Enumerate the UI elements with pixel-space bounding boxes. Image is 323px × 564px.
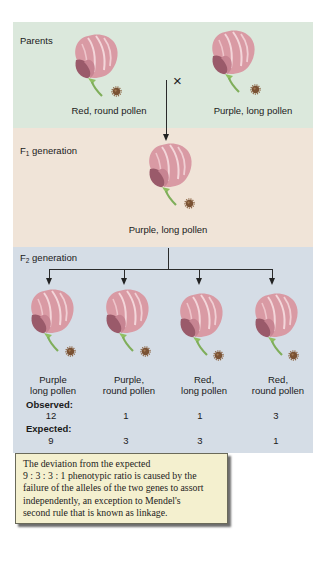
branch-drop-3: [199, 269, 200, 278]
expected-value-2: 3: [106, 435, 146, 446]
observed-value-4: 3: [256, 410, 296, 421]
phenotype-label-2: Purple,round pollen: [93, 374, 165, 396]
arrow-down-icon: [46, 278, 52, 285]
parent-left-label: Red, round pollen: [53, 105, 165, 116]
f1-to-f2-line: [168, 248, 169, 270]
observed-value-1: 12: [31, 410, 71, 421]
observed-label: Observed:: [26, 399, 73, 410]
cross-symbol: ×: [173, 72, 182, 89]
note-line: 9 : 3 : 3 : 1 phenotypic ratio is caused…: [23, 470, 227, 482]
branch-drop-1: [49, 269, 50, 278]
pollen-icon: [140, 346, 151, 357]
pollen-icon: [65, 346, 76, 357]
round-pollen-icon: [111, 86, 122, 97]
f2-flower-4: [246, 291, 302, 357]
linkage-explanation-note: The deviation from the expected 9 : 3 : …: [15, 453, 228, 524]
flower-icon: [97, 287, 153, 353]
observed-value-2: 1: [106, 410, 146, 421]
pollen-icon: [288, 350, 299, 361]
expected-value-3: 3: [180, 435, 220, 446]
arrow-down-icon: [269, 278, 275, 285]
f1-offspring-label: Purple, long pollen: [118, 224, 218, 235]
branch-drop-4: [272, 269, 273, 278]
branch-drop-2: [124, 269, 125, 278]
parents-to-f1-line: [166, 80, 167, 136]
f2-flower-2: [97, 287, 153, 353]
f2-label: F2 generation: [20, 252, 77, 264]
f2-panel: F2 generation Purplelong pollen Purple,r…: [13, 247, 313, 453]
f2-flower-1: [22, 287, 78, 353]
note-line: The deviation from the expected: [23, 458, 227, 470]
f2-flower-3: [171, 291, 227, 357]
long-pollen-icon: [184, 198, 195, 209]
expected-value-4: 1: [256, 435, 296, 446]
arrow-down-icon: [163, 134, 169, 141]
note-line: failure of the alleles of the two genes …: [23, 482, 227, 494]
arrow-down-icon: [196, 278, 202, 285]
parents-label: Parents: [20, 35, 53, 46]
flower-icon: [246, 291, 302, 357]
phenotype-label-1: Purplelong pollen: [18, 374, 88, 396]
expected-value-1: 9: [31, 435, 71, 446]
observed-value-3: 1: [180, 410, 220, 421]
long-pollen-icon: [250, 84, 261, 95]
arrow-down-icon: [121, 278, 127, 285]
f2-branch-line: [49, 269, 273, 270]
flower-icon: [171, 291, 227, 357]
parents-panel: Parents Red, round pollen × Purple, long…: [13, 22, 313, 128]
expected-label: Expected:: [26, 423, 71, 434]
f1-panel: F1 generation Purple, long pollen: [13, 128, 313, 247]
note-line: second rule that is known as linkage.: [23, 507, 227, 519]
f1-label: F1 generation: [20, 145, 77, 157]
phenotype-label-3: Red,long pollen: [171, 374, 237, 396]
phenotype-label-4: Red,round pollen: [243, 374, 313, 396]
parent-right-label: Purple, long pollen: [198, 105, 308, 116]
note-line: independently, an exception to Mendel's: [23, 495, 227, 507]
flower-icon: [22, 287, 78, 353]
pollen-icon: [213, 350, 224, 361]
